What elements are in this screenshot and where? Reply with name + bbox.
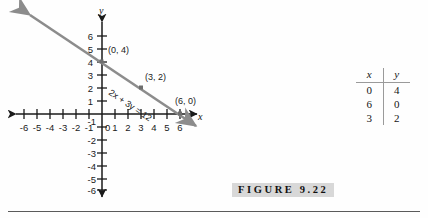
y-tick--5: -5 (88, 174, 96, 185)
x-tick--5: -5 (33, 122, 41, 133)
y-axis-label: y (98, 5, 104, 16)
x-tick-4: 4 (151, 122, 156, 133)
x-tick--3: -3 (59, 122, 67, 133)
table-row: 0 4 (356, 83, 410, 98)
origin-label: 0 (105, 122, 110, 133)
y-axis (97, 22, 107, 197)
x-axis-label: x (197, 111, 203, 122)
table-cell-x: 3 (356, 111, 383, 125)
table-header-row: x y (356, 68, 410, 83)
y-tick--3: -3 (88, 148, 96, 159)
y-tick-5: 5 (88, 44, 93, 55)
figure-page: x y 0 -6 -5 -4 -3 -2 -1 1 2 3 4 5 6 6 5 … (0, 0, 428, 218)
y-tick--1: -1 (88, 116, 96, 127)
horizontal-rule (8, 211, 420, 212)
table-header-x: x (356, 68, 383, 83)
y-tick-4: 4 (88, 57, 93, 68)
x-tick--4: -4 (46, 122, 54, 133)
table-row: 6 0 (356, 97, 410, 111)
y-tick-1: 1 (88, 96, 93, 107)
x-tick-2: 2 (125, 122, 130, 133)
point-label-0-4: (0, 4) (108, 45, 129, 55)
table-cell-y: 2 (383, 111, 410, 125)
table-header-y: y (383, 68, 410, 83)
value-table: x y 0 4 6 0 3 2 (356, 68, 410, 125)
x-tick-1: 1 (112, 122, 117, 133)
y-tick--2: -2 (88, 135, 96, 146)
x-tick--2: -2 (72, 122, 80, 133)
table-cell-x: 0 (356, 83, 383, 98)
point-label-6-0: (6, 0) (175, 96, 196, 106)
y-tick-6: 6 (88, 31, 93, 42)
x-tick-6: 6 (177, 122, 182, 133)
table-row: 3 2 (356, 111, 410, 125)
table-cell-x: 6 (356, 97, 383, 111)
y-tick--6: -6 (88, 185, 96, 196)
plotted-line (30, 15, 196, 126)
y-tick--4: -4 (88, 161, 96, 172)
y-tick-3: 3 (88, 70, 93, 81)
x-axis (16, 109, 197, 119)
figure-caption: FIGURE 9.22 (232, 183, 334, 197)
table-cell-y: 0 (383, 97, 410, 111)
x-tick-3: 3 (138, 122, 143, 133)
coordinate-plane: x y 0 -6 -5 -4 -3 -2 -1 1 2 3 4 5 6 6 5 … (0, 0, 230, 200)
table-cell-y: 4 (383, 83, 410, 98)
x-tick-5: 5 (164, 122, 169, 133)
y-tick-2: 2 (88, 83, 93, 94)
x-tick--6: -6 (20, 122, 28, 133)
point-label-3-2: (3, 2) (145, 72, 166, 82)
